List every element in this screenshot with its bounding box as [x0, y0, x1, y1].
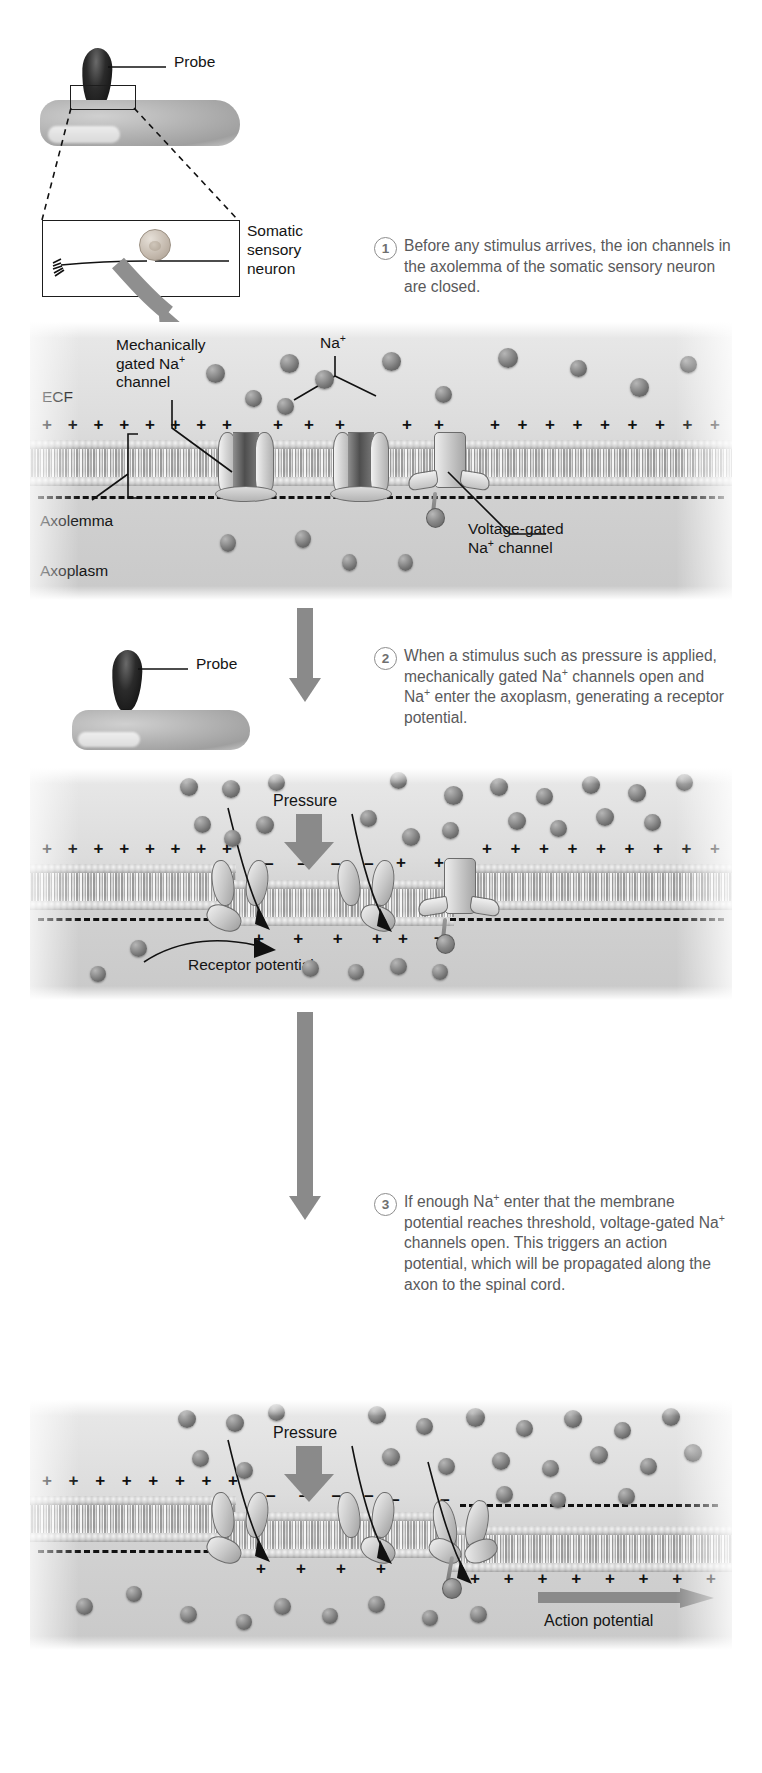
mechanically-gated-leader — [170, 400, 260, 482]
sodium-ion — [582, 776, 600, 794]
sodium-ion — [180, 1606, 197, 1623]
step-3-callout: 3 If enough Na+ enter that the membrane … — [374, 1192, 732, 1296]
extracellular-charges-3a: ++++++++ — [42, 1472, 238, 1489]
sodium-ion — [382, 1448, 400, 1466]
phospholipid-bilayer-2-left — [30, 864, 236, 910]
step-2-callout: 2 When a stimulus such as pressure is ap… — [374, 646, 732, 729]
neuron-label-line-2: sensory — [247, 241, 303, 260]
voltage-gated-channel-2 — [436, 858, 482, 912]
step-2-probe-illustration: Probe — [60, 650, 320, 770]
sodium-ion — [360, 810, 377, 827]
sodium-ion — [348, 964, 364, 980]
sodium-ion — [194, 816, 211, 833]
intracellular-negative-line-2-right — [450, 918, 724, 921]
sodium-ion — [516, 1420, 533, 1437]
sodium-ion — [236, 1614, 252, 1630]
intracellular-negative-line-2-left — [38, 918, 228, 921]
sodium-ion — [470, 1606, 487, 1623]
na-influx-arrow-3a — [226, 1440, 286, 1570]
sodium-ion — [662, 1408, 680, 1426]
sodium-ion — [432, 964, 448, 980]
sodium-ion — [315, 370, 334, 389]
sodium-ion — [90, 966, 106, 982]
membrane-panel-1: ++++++++ +++ ++ +++++++++ ECF Mechanical… — [30, 322, 732, 600]
fingernail — [78, 732, 140, 747]
sodium-ion — [640, 1458, 657, 1475]
sodium-ion — [644, 814, 661, 831]
sodium-ion — [614, 1422, 631, 1439]
probe-label: Probe — [196, 655, 237, 673]
sodium-ion — [444, 786, 463, 805]
na-influx-arrow-3b — [350, 1446, 410, 1570]
extracellular-charges-1c: ++ — [402, 416, 444, 433]
sodium-ion — [180, 778, 198, 796]
sodium-ion — [368, 1406, 386, 1424]
axolemma-label: Axolemma — [40, 512, 113, 530]
sodium-ion — [550, 1492, 566, 1508]
mg-label-line-1: Mechanically — [116, 336, 206, 355]
sodium-ion — [596, 808, 614, 826]
sodium-ion — [76, 1598, 93, 1615]
mechanically-gated-channel-1b — [333, 432, 389, 494]
neuron-label-line-1: Somatic — [247, 222, 303, 241]
sodium-ion — [390, 772, 407, 789]
sodium-ion — [536, 788, 553, 805]
sodium-ion — [680, 356, 697, 373]
sodium-ion — [342, 554, 357, 571]
sodium-ion — [295, 530, 311, 548]
pressure-arrow-2 — [282, 814, 338, 872]
sodium-ion — [628, 784, 646, 802]
step-1-number: 1 — [374, 237, 397, 260]
sodium-ion — [498, 348, 518, 368]
extracellular-charges-2b: +++++++++ — [482, 840, 720, 857]
sodium-ion — [280, 354, 299, 373]
probe-leader-line — [138, 666, 200, 672]
sodium-ion — [245, 390, 262, 407]
sodium-ion — [302, 960, 319, 977]
sodium-ion — [130, 940, 147, 957]
sodium-ion — [268, 1404, 285, 1421]
sodium-ion — [564, 1410, 582, 1428]
sodium-ion — [390, 958, 407, 975]
sodium-ion — [368, 1596, 385, 1613]
sodium-ion — [178, 1410, 196, 1428]
sodium-ion — [550, 820, 567, 837]
action-potential-label: Action potential — [544, 1612, 653, 1631]
sodium-ion — [676, 774, 693, 791]
axoplasm-label: Axoplasm — [40, 562, 108, 580]
membrane-panel-2: ++++++++ −−−− ++ +++++++++ ++++ +− Press… — [30, 768, 732, 1000]
na-ion-label: Na+ — [320, 334, 346, 352]
sodium-ion — [398, 554, 413, 571]
axolemma-bracket — [122, 434, 162, 510]
sodium-ion — [268, 774, 285, 791]
sodium-ion — [226, 1414, 244, 1432]
flow-arrow-2-to-3 — [285, 1012, 325, 1222]
sodium-ion — [236, 1462, 253, 1479]
step-2-text: When a stimulus such as pressure is appl… — [404, 646, 732, 729]
step-2-number: 2 — [374, 647, 397, 670]
sodium-ion — [277, 398, 294, 415]
vg-label-line-2: Na+ channel — [468, 539, 564, 558]
na-influx-arrow-3c — [426, 1462, 490, 1594]
sodium-ion — [220, 534, 236, 552]
sodium-ion — [435, 386, 452, 403]
step-1-text: Before any stimulus arrives, the ion cha… — [404, 236, 732, 298]
extracellular-charges-1d: +++++++++ — [490, 416, 720, 433]
step-1-callout: 1 Before any stimulus arrives, the ion c… — [374, 236, 732, 298]
ecf-label: ECF — [42, 388, 73, 406]
probe-icon — [111, 649, 143, 712]
sodium-ion — [422, 1610, 438, 1626]
sodium-ion — [438, 1458, 455, 1475]
extracellular-charges-2a: ++++++++ — [42, 840, 232, 857]
mg-label-line-2: gated Na+ — [116, 355, 206, 374]
sodium-ion — [322, 1608, 338, 1624]
sodium-ion — [466, 1408, 485, 1427]
sodium-ion — [206, 364, 225, 383]
sodium-ion — [492, 1452, 510, 1470]
intracellular-negative-line-3-left — [38, 1550, 228, 1553]
phospholipid-bilayer-3-left — [30, 1496, 236, 1542]
sodium-ion — [496, 1486, 513, 1503]
sodium-ion — [542, 1460, 559, 1477]
pressure-arrow-3 — [282, 1446, 338, 1504]
extracellular-charges-1b: +++ — [273, 416, 345, 433]
